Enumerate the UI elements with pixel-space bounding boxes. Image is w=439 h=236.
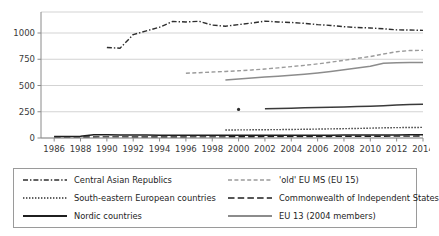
legend-line-sample <box>227 193 273 203</box>
x-axis-labels-group: 1986198819901992199419961998200020022004… <box>43 144 430 154</box>
y-tick-label: 500 <box>19 81 35 91</box>
y-tick-label: 0 <box>30 133 35 143</box>
legend-item-label: EU 13 (2004 members) <box>279 212 376 220</box>
legend-item-label: 'old' EU MS (EU 15) <box>279 176 359 184</box>
x-tick-label: 2012 <box>386 144 408 154</box>
x-axis-ticks-group <box>54 138 423 142</box>
legend-line-sample <box>22 193 68 203</box>
gridlines-group <box>41 12 423 138</box>
legend-line-sample <box>22 211 68 221</box>
series-line <box>186 50 423 73</box>
y-tick-label: 1000 <box>13 28 35 38</box>
legend-item[interactable]: South-eastern European countries <box>22 193 227 203</box>
series-line <box>54 136 423 137</box>
x-tick-label: 2006 <box>307 144 329 154</box>
legend-line-sample <box>22 175 68 185</box>
legend-item[interactable]: EU 13 (2004 members) <box>227 211 439 221</box>
legend-item-label: Central Asian Republics <box>74 176 172 184</box>
y-axis-labels-group: 02505007501000 <box>13 28 35 143</box>
x-tick-label: 2002 <box>254 144 276 154</box>
legend-item-label: Commonwealth of Independent States <box>279 194 439 202</box>
x-tick-label: 1986 <box>43 144 65 154</box>
legend-grid: Central Asian Republics'old' EU MS (EU 1… <box>14 169 416 227</box>
series-line <box>107 21 423 48</box>
legend-item[interactable]: Central Asian Republics <box>22 175 227 185</box>
legend-item-label: South-eastern European countries <box>74 194 216 202</box>
x-tick-label: 1988 <box>70 144 92 154</box>
chart-legend: Central Asian Republics'old' EU MS (EU 1… <box>13 168 417 228</box>
x-tick-label: 1996 <box>175 144 197 154</box>
x-tick-label: 2008 <box>333 144 355 154</box>
x-tick-label: 1990 <box>96 144 118 154</box>
legend-item[interactable]: 'old' EU MS (EU 15) <box>227 175 439 185</box>
line-chart-svg: 02505007501000 1986198819901992199419961… <box>0 0 430 162</box>
legend-item[interactable]: Nordic countries <box>22 211 227 221</box>
series-line <box>225 62 423 80</box>
x-tick-label: 2000 <box>228 144 250 154</box>
x-tick-label: 2004 <box>280 144 302 154</box>
data-point-marker <box>237 108 240 111</box>
x-tick-label: 2010 <box>359 144 381 154</box>
chart-plot-area: 02505007501000 1986198819901992199419961… <box>0 0 430 162</box>
legend-item-label: Nordic countries <box>74 212 142 220</box>
x-tick-label: 1992 <box>122 144 144 154</box>
legend-line-sample <box>227 211 273 221</box>
x-tick-label: 1994 <box>149 144 171 154</box>
y-tick-label: 750 <box>19 54 35 64</box>
x-tick-label: 1998 <box>201 144 223 154</box>
axis-lines-group <box>41 12 423 138</box>
data-series-group <box>54 21 423 137</box>
x-tick-label: 2014 <box>412 144 430 154</box>
series-line <box>225 127 423 130</box>
y-tick-label: 250 <box>19 107 35 117</box>
legend-line-sample <box>227 175 273 185</box>
series-line <box>265 104 423 109</box>
y-axis-ticks-group <box>38 33 42 138</box>
legend-item[interactable]: Commonwealth of Independent States <box>227 193 439 203</box>
